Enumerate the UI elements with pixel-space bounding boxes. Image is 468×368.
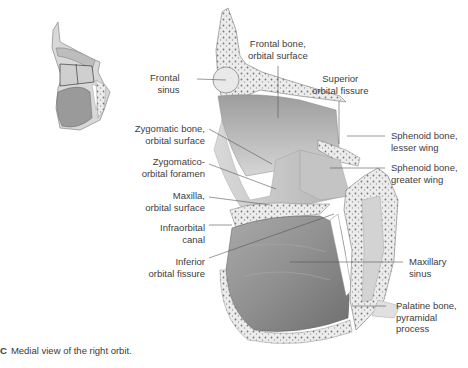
- label-line: Sphenoid bone,: [391, 130, 458, 142]
- label-maxillary-sinus: Maxillary sinus: [409, 256, 446, 279]
- label-line: orbital foramen: [142, 168, 205, 180]
- label-line: sinus: [150, 84, 180, 96]
- label-line: process: [396, 323, 457, 335]
- label-palatine-bone-pyramidal-process: Palatine bone, pyramidal process: [396, 300, 457, 335]
- figure-caption-text: Medial view of the right orbit.: [11, 345, 132, 356]
- label-sphenoid-greater-wing: Sphenoid bone, greater wing: [391, 162, 458, 185]
- label-line: Inferior: [149, 256, 206, 268]
- label-line: pyramidal: [396, 312, 457, 324]
- label-frontal-sinus: Frontal sinus: [150, 72, 180, 95]
- label-line: Sphenoid bone,: [391, 162, 458, 174]
- label-line: Superior: [312, 73, 369, 85]
- label-line: canal: [160, 234, 205, 246]
- label-superior-orbital-fissure: Superior orbital fissure: [312, 73, 369, 96]
- figure-letter: C: [0, 345, 7, 356]
- label-line: orbital fissure: [312, 85, 369, 97]
- figure-caption: CMedial view of the right orbit.: [0, 345, 132, 356]
- label-line: orbital surface: [145, 202, 205, 214]
- orientation-thumbnail: [52, 22, 110, 130]
- label-frontal-bone-orbital-surface: Frontal bone, orbital surface: [248, 38, 308, 61]
- label-line: orbital fissure: [149, 268, 206, 280]
- label-infraorbital-canal: Infraorbital canal: [160, 222, 205, 245]
- label-line: orbital surface: [135, 135, 205, 147]
- label-line: Zygomatico-: [142, 156, 205, 168]
- label-sphenoid-lesser-wing: Sphenoid bone, lesser wing: [391, 130, 458, 153]
- label-line: Frontal bone,: [248, 38, 308, 50]
- label-line: greater wing: [391, 174, 458, 186]
- label-zygomatic-bone-orbital-surface: Zygomatic bone, orbital surface: [135, 123, 205, 146]
- label-line: sinus: [409, 268, 446, 280]
- label-line: Maxillary: [409, 256, 446, 268]
- label-line: orbital surface: [248, 50, 308, 62]
- label-line: Palatine bone,: [396, 300, 457, 312]
- label-line: lesser wing: [391, 142, 458, 154]
- label-line: Maxilla,: [145, 190, 205, 202]
- label-maxilla-orbital-surface: Maxilla, orbital surface: [145, 190, 205, 213]
- label-line: Infraorbital: [160, 222, 205, 234]
- label-line: Zygomatic bone,: [135, 123, 205, 135]
- label-zygomatico-orbital-foramen: Zygomatico- orbital foramen: [142, 156, 205, 179]
- label-inferior-orbital-fissure: Inferior orbital fissure: [149, 256, 206, 279]
- label-line: Frontal: [150, 72, 180, 84]
